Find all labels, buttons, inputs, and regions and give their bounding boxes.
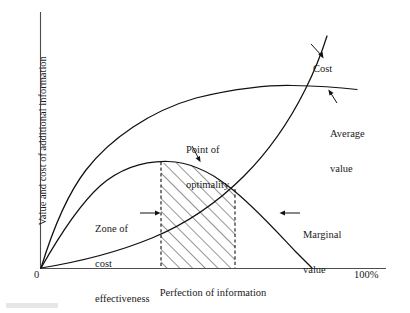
y-axis-title: Value and cost of additional information: [37, 16, 49, 266]
average-value-label-line1: Average: [330, 128, 365, 140]
caption-edge-artifact: [6, 303, 58, 308]
point-of-optimality-line1: Point of: [186, 144, 229, 156]
average-value-label-line2: value: [330, 163, 365, 175]
marginal-value-leader: [280, 210, 301, 215]
cost-label-line1: Cost: [313, 63, 332, 75]
marginal-value-label-line2: value: [303, 264, 341, 276]
point-of-optimality-label: Point of optimality: [186, 120, 229, 214]
average-value-label: Average value: [330, 104, 365, 198]
marginal-value-label-line1: Marginal: [303, 229, 341, 241]
marginal-value-label: Marginal value: [303, 205, 341, 299]
chart-figure: Value and cost of additional information…: [0, 0, 410, 313]
zone-label-line1: Zone of: [95, 223, 150, 235]
point-of-optimality-line2: optimality: [186, 179, 229, 191]
cost-label: Cost: [313, 39, 332, 98]
x-tick-label-min: 0: [34, 269, 39, 281]
zone-label-line3: effectiveness: [95, 293, 150, 305]
zone-of-cost-effectiveness-label: Zone of cost effectiveness: [95, 199, 150, 313]
x-tick-label-max: 100%: [354, 269, 379, 281]
zone-label-line2: cost: [95, 258, 150, 270]
